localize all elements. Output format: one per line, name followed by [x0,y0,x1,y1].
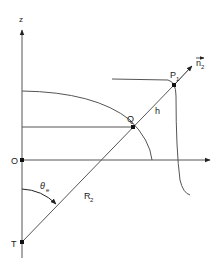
theta-label: θ [40,181,45,191]
r-subscript: 2 [90,197,94,203]
theta-subscript: e [46,187,50,193]
t-label: T [11,239,17,249]
radial-line [22,85,174,242]
z-axis-label: z [19,15,23,24]
origin-label: O [11,156,18,166]
geometry-diagram: z O T Q P 1 h R 2 θ e n 2 [0,0,216,270]
point-t [20,240,24,244]
point-origin [20,158,24,162]
point-p1 [172,83,176,87]
angle-arc [22,189,56,204]
n-subscript: 2 [201,64,205,70]
q-label: Q [127,114,134,124]
point-q [131,125,135,129]
h-label: h [155,106,160,116]
